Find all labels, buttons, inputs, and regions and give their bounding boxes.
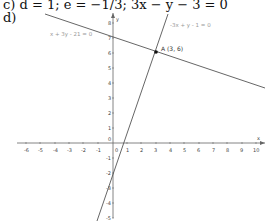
svg-text:-4: -4 (106, 200, 111, 206)
line2-equation-label: -3x + y - 1 = 0 (170, 22, 211, 29)
svg-text:-2: -2 (106, 170, 111, 176)
svg-text:4: 4 (108, 80, 111, 86)
svg-text:-3: -3 (67, 147, 72, 153)
svg-text:4: 4 (169, 147, 172, 153)
svg-text:6: 6 (108, 50, 111, 56)
y-axis-arrow-icon (111, 13, 115, 18)
x-tick-labels: -6 -5 -4 -3 -2 -1 0 1 2 3 4 5 6 7 8 9 10 (24, 147, 259, 153)
svg-text:1: 1 (108, 125, 111, 131)
y-axis-label: y (116, 16, 119, 23)
svg-text:-5: -5 (38, 147, 43, 153)
svg-text:-2: -2 (81, 147, 86, 153)
x-axis-arrow-icon (260, 141, 265, 145)
svg-text:2: 2 (140, 147, 143, 153)
svg-text:3: 3 (108, 95, 111, 101)
svg-text:3: 3 (154, 147, 157, 153)
svg-text:7: 7 (212, 147, 215, 153)
svg-text:1: 1 (126, 147, 129, 153)
svg-text:-1: -1 (96, 147, 101, 153)
x-axis-label: x (257, 135, 260, 141)
svg-text:9: 9 (240, 147, 243, 153)
svg-text:0: 0 (115, 147, 118, 153)
svg-text:-5: -5 (106, 215, 111, 221)
svg-text:6: 6 (197, 147, 200, 153)
svg-text:-4: -4 (53, 147, 58, 153)
svg-text:0: 0 (108, 136, 111, 142)
svg-text:-1: -1 (106, 155, 111, 161)
svg-text:2: 2 (108, 110, 111, 116)
svg-text:10: 10 (253, 147, 259, 153)
svg-text:5: 5 (183, 147, 186, 153)
y-tick-labels: 8 7 6 5 4 3 2 1 0 -1 -2 -3 -4 -5 (106, 20, 111, 221)
svg-text:5: 5 (108, 65, 111, 71)
intersection-label: A (3, 6) (161, 45, 183, 52)
svg-text:8: 8 (108, 20, 111, 26)
svg-text:8: 8 (226, 147, 229, 153)
line-3x-minus-y (97, 14, 168, 221)
line1-equation-label: x + 3y - 21 = 0 (50, 31, 93, 38)
intersection-point-a (154, 50, 158, 54)
coordinate-graph: x y -6 -5 -4 -3 -2 -1 0 1 2 3 4 5 6 7 8 … (0, 0, 268, 221)
svg-text:-6: -6 (24, 147, 29, 153)
